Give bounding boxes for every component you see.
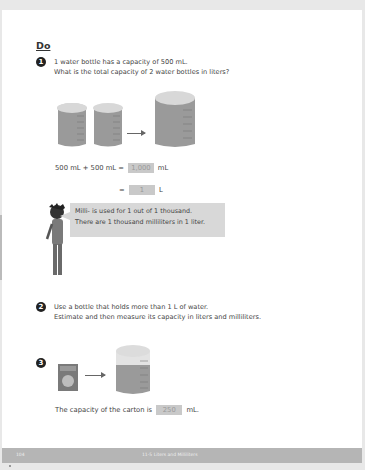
page-edge-strip xyxy=(0,215,2,280)
question-number-2: 2 xyxy=(36,302,46,312)
question-1-text: 1 water bottle has a capacity of 500 mL.… xyxy=(54,57,229,77)
tip-line-1: Milli- is used for 1 out of 1 thousand. xyxy=(75,206,220,217)
equation-2: = 1 L xyxy=(119,185,163,195)
page-footer: 104 11-5 Liters and Milliliters xyxy=(2,448,362,463)
equation-1: 500 mL + 500 mL = 1,000 mL xyxy=(55,163,168,173)
question-2-line-2: Estimate and then measure its capacity i… xyxy=(54,312,261,322)
equation-1-left: 500 mL + 500 mL = xyxy=(55,164,124,172)
page-number: 104 xyxy=(16,452,25,457)
question-1-line-2: What is the total capacity of 2 water bo… xyxy=(54,67,229,77)
arrow-right-icon xyxy=(85,375,105,376)
arrow-right-icon xyxy=(127,133,145,134)
answer-box-1000[interactable]: 1,000 xyxy=(128,163,153,173)
small-beaker-icon xyxy=(91,102,125,148)
measuring-beaker-icon xyxy=(112,343,154,397)
section-title: Do xyxy=(36,40,50,51)
equation-2-unit: L xyxy=(159,186,163,194)
question-3-unit: mL. xyxy=(186,406,199,414)
equation-1-unit: mL xyxy=(158,164,168,172)
answer-box-1[interactable]: 1 xyxy=(129,185,155,195)
chapter-title: 11-5 Liters and Milliliters xyxy=(142,452,198,457)
page-mark xyxy=(9,465,11,467)
tip-line-2: There are 1 thousand milliliters in 1 li… xyxy=(75,217,220,228)
question-3-sentence: The capacity of the carton is 250 mL. xyxy=(55,405,199,415)
equation-2-left: = xyxy=(119,186,125,194)
question-number-3: 3 xyxy=(36,358,46,368)
small-beaker-icon xyxy=(55,102,89,148)
large-beaker-icon xyxy=(151,90,199,150)
question-1-line-1: 1 water bottle has a capacity of 500 mL. xyxy=(54,57,229,67)
juice-carton-icon xyxy=(57,362,79,392)
tip-speech-bubble: Milli- is used for 1 out of 1 thousand. … xyxy=(70,203,225,237)
question-2-line-1: Use a bottle that holds more than 1 L of… xyxy=(54,302,261,312)
question-2-text: Use a bottle that holds more than 1 L of… xyxy=(54,302,261,322)
question-3-text: The capacity of the carton is xyxy=(55,406,152,414)
answer-box-250[interactable]: 250 xyxy=(156,405,182,415)
question-number-1: 1 xyxy=(36,57,46,67)
